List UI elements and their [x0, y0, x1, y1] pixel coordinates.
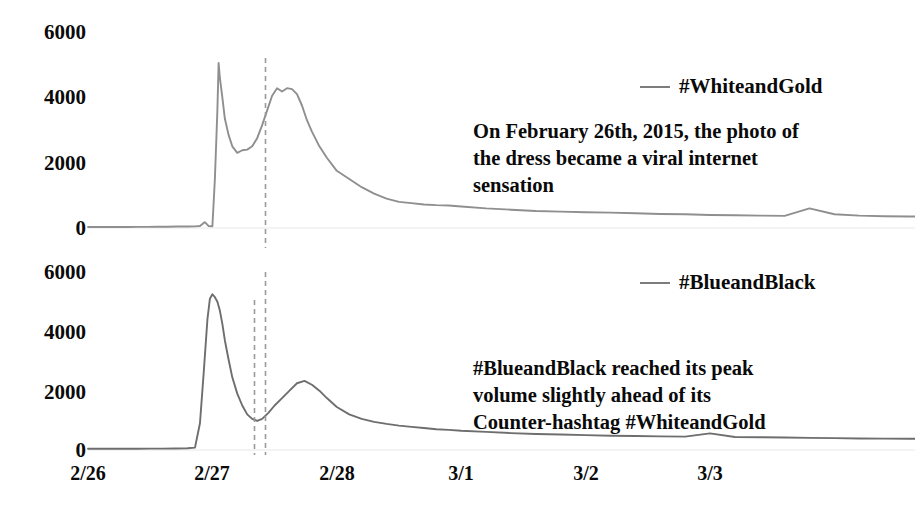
xtick-1: 2/27	[172, 462, 252, 485]
legend-line-swatch-blueandblack	[640, 282, 670, 284]
xtick-2: 2/28	[297, 462, 377, 485]
xtick-5: 3/3	[670, 462, 750, 485]
bottom-panel-plot	[0, 0, 915, 515]
xtick-3: 3/1	[421, 462, 501, 485]
legend-label-blueandblack: #BlueandBlack	[679, 270, 816, 295]
chart-canvas: 6000 4000 2000 0 #WhiteandGold On Februa…	[0, 0, 915, 515]
legend-blueandblack: #BlueandBlack	[640, 270, 816, 295]
xtick-0: 2/26	[48, 462, 128, 485]
annotation-blueandblack: #BlueandBlack reached its peak volume sl…	[473, 355, 766, 436]
xtick-4: 3/2	[546, 462, 626, 485]
